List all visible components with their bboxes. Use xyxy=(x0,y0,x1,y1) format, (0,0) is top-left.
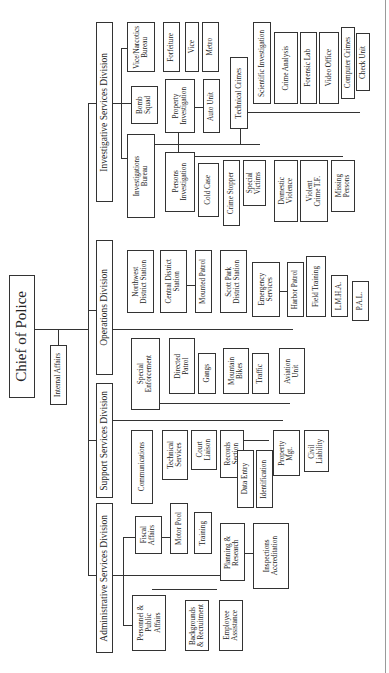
connector xyxy=(88,103,96,104)
computer-crimes-box: Computer Crimes xyxy=(341,27,355,99)
personnel-public-affairs-box: Personnel & Public Affairs xyxy=(132,595,166,651)
missing-persons-box: Missing Persons xyxy=(331,160,355,212)
training-box: Training xyxy=(194,512,212,554)
investigations-bureau-box: Investigations Bureau xyxy=(127,134,155,218)
domestic-violence-box: Domestic Violence xyxy=(274,160,298,222)
property-investigation-box: Property Investigation xyxy=(165,79,195,133)
crime-stopper-box: Crime Stopper xyxy=(223,160,240,226)
connector xyxy=(160,403,290,404)
connector xyxy=(88,440,96,441)
connector xyxy=(121,103,131,104)
metro-box: Metro xyxy=(202,22,219,72)
scott-park-station-box: Scott Park District Station xyxy=(220,250,247,313)
page-border xyxy=(385,0,386,673)
technical-crimes-box: Technical Crimes xyxy=(230,57,248,129)
central-station-box: Central District Station xyxy=(160,250,187,313)
cold-case-box: Cold Case xyxy=(198,163,219,217)
vice-narcotics-box: Vice/Narcotics Bureau xyxy=(127,22,155,72)
connector xyxy=(244,440,269,441)
property-mgt-box: Property Mgt. xyxy=(273,430,300,476)
identification-box: Identification xyxy=(256,450,273,508)
connector xyxy=(162,537,170,538)
traffic-box: Traffic xyxy=(252,353,269,394)
fiscal-affairs-box: Fiscal Affairs xyxy=(135,516,162,554)
connector xyxy=(113,329,293,330)
vice-box: Vice xyxy=(185,22,199,72)
auto-unit-box: Auto Unit xyxy=(203,79,220,133)
gangs-box: Gangs xyxy=(198,353,216,394)
connector xyxy=(88,575,96,576)
internal-affairs-box: Internal Affairs xyxy=(50,345,67,405)
connector xyxy=(155,144,260,145)
crime-analysis-box: Crime Analysis xyxy=(274,32,298,104)
field-training-box: Field Training xyxy=(306,256,326,317)
northwest-station-box: Northwest District Station xyxy=(127,250,154,313)
chief-label: Chief of Police xyxy=(13,291,30,382)
forfeiture-box: Forfeiture xyxy=(163,22,180,72)
connector xyxy=(280,291,287,292)
pal-box: P.A.L. xyxy=(352,281,369,321)
connector xyxy=(113,420,283,421)
data-entry-box: Data Entry xyxy=(237,450,254,508)
special-victims-box: Special Victims xyxy=(243,160,266,206)
inspections-accreditation-box: Inspections Accreditation xyxy=(253,523,289,589)
technical-services-box: Technical Services xyxy=(162,430,188,480)
connector xyxy=(88,310,96,311)
video-office-box: Video Office xyxy=(319,32,339,104)
connector xyxy=(35,329,88,330)
civil-liability-box: Civil Liability xyxy=(304,430,329,472)
connector xyxy=(152,589,217,590)
connector xyxy=(123,537,135,538)
employee-assistance-box: Employee Assistance xyxy=(219,600,243,651)
harbor-patrol-box: Harbor Patrol xyxy=(287,262,304,317)
connector xyxy=(195,107,203,108)
division-spine xyxy=(88,103,89,576)
court-liaison-box: Court Liaison xyxy=(191,430,217,470)
connector xyxy=(113,575,223,576)
support-division-box: Support Services Division xyxy=(96,383,113,498)
aviation-unit-box: Aviation Unit xyxy=(279,348,305,394)
directed-patrol-box: Directed Patrol xyxy=(169,338,195,394)
connector xyxy=(245,553,253,554)
chief-of-police-box: Chief of Police xyxy=(9,275,35,398)
check-unit-box: Check Unit xyxy=(356,33,370,91)
special-enforcement-box: Special Enforcement xyxy=(131,338,160,410)
motor-pool-box: Motor Pool xyxy=(170,503,188,554)
communications-box: Communications xyxy=(131,430,153,504)
bomb-squad-box: Bomb Squad xyxy=(131,86,158,124)
connector xyxy=(123,537,124,625)
mountain-bikes-box: Mountain Bikes xyxy=(223,348,249,394)
scientific-investigation-box: Scientific Investigation xyxy=(253,22,271,104)
forensic-lab-box: Forensic Lab xyxy=(300,32,317,104)
connector xyxy=(58,329,59,345)
mounted-patrol-box: Mounted Patrol xyxy=(195,250,212,313)
emergency-services-box: Emergency Services xyxy=(252,262,280,317)
operations-division-box: Operations Division xyxy=(96,240,113,375)
administrative-division-box: Administrative Services Division xyxy=(96,503,113,653)
violent-crime-tf-box: Violent Crime T.F. xyxy=(300,160,328,222)
persons-investigation-box: Persons Investigation xyxy=(165,152,195,212)
connector xyxy=(248,112,360,113)
investigative-division-box: Investigative Services Division xyxy=(96,22,113,202)
connector xyxy=(178,156,343,157)
connector xyxy=(113,103,121,104)
connector xyxy=(240,128,241,144)
connector xyxy=(187,285,195,286)
planning-research-box: Planning & Research xyxy=(220,523,245,581)
lmha-box: L.M.H.A. xyxy=(331,275,348,317)
backgrounds-recruitment-box: Backgrounds & Recruitment xyxy=(185,600,209,651)
